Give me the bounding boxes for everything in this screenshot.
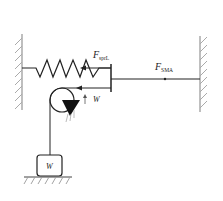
pulley-weight-arrow (83, 94, 87, 104)
left-wall (15, 34, 22, 110)
spring-force-arrow (80, 66, 111, 71)
right-wall (200, 36, 207, 112)
pulley-support (62, 100, 80, 122)
ground (24, 177, 72, 184)
sma-spring-pulley-diagram: FsprL FSMA W W (0, 0, 223, 201)
cable (50, 86, 111, 156)
sma-wire (111, 78, 200, 80)
pulley-weight-label: W (93, 95, 101, 104)
sma-force-label: FSMA (154, 61, 173, 73)
spring-force-label: FsprL (92, 49, 110, 61)
